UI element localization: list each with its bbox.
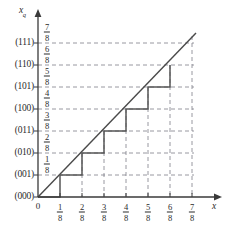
y-tick-label-1-8-denominator: 8	[44, 164, 50, 174]
y-tick-label-4-8-denominator: 8	[44, 98, 50, 108]
y-tick-label-7-8-numerator: 7	[44, 23, 50, 32]
y-axis-label-subscript: q	[23, 11, 26, 18]
code-label-111: (111)	[15, 38, 34, 48]
vertical-gridlines	[82, 36, 192, 196]
code-label-010: (010)	[14, 148, 34, 158]
code-label-001: (001)	[14, 170, 34, 180]
x-tick-label-3-8: 3 8	[101, 203, 107, 222]
x-tick-label-4-8-numerator: 4	[123, 203, 129, 212]
y-tick-label-3-8-denominator: 8	[44, 120, 50, 130]
x-tick-label-1-8-denominator: 8	[57, 212, 63, 222]
x-tick-label-3-8-numerator: 3	[101, 203, 107, 212]
quantizer-transfer-characteristic-figure: xq x (111) (110) (101) (100) (011) (010)…	[0, 0, 233, 235]
x-tick-label-5-8-denominator: 8	[145, 212, 151, 222]
x-tick-label-1-8-numerator: 1	[57, 203, 63, 212]
x-tick-label-6-8-numerator: 6	[167, 203, 173, 212]
code-label-000: (000)	[14, 192, 34, 202]
y-tick-label-3-8-numerator: 3	[44, 111, 50, 120]
y-tick-label-7-8: 7 8	[44, 23, 50, 42]
horizontal-gridlines	[38, 43, 194, 175]
y-tick-label-1-8: 1 8	[44, 155, 50, 174]
x-tick-label-3-8-denominator: 8	[101, 212, 107, 222]
x-tick-label-4-8: 4 8	[123, 203, 129, 222]
ideal-transfer-line	[38, 33, 196, 197]
x-tick-label-0: 0	[36, 201, 41, 211]
x-tick-label-2-8: 2 8	[79, 203, 85, 222]
y-tick-label-5-8-numerator: 5	[44, 67, 50, 76]
x-tick-label-7-8-numerator: 7	[189, 203, 195, 212]
x-tick-label-5-8: 5 8	[145, 203, 151, 222]
x-tick-label-5-8-numerator: 5	[145, 203, 151, 212]
y-tick-label-2-8-numerator: 2	[44, 133, 50, 142]
y-axis-label: xq	[19, 5, 26, 17]
x-tick-label-7-8: 7 8	[189, 203, 195, 222]
code-label-100: (100)	[14, 104, 34, 114]
x-tick-label-4-8-denominator: 8	[123, 212, 129, 222]
x-tick-label-7-8-denominator: 8	[189, 212, 195, 222]
x-axis-arrowhead	[214, 194, 222, 201]
x-tick-label-6-8: 6 8	[167, 203, 173, 222]
y-tick-label-4-8-numerator: 4	[44, 89, 50, 98]
code-label-110: (110)	[15, 60, 34, 70]
code-label-011: (011)	[15, 126, 34, 136]
x-tick-label-2-8-numerator: 2	[79, 203, 85, 212]
x-tick-label-2-8-denominator: 8	[79, 212, 85, 222]
y-tick-label-1-8-numerator: 1	[44, 155, 50, 164]
y-axis-arrowhead	[35, 9, 42, 17]
y-tick-label-2-8: 2 8	[44, 133, 50, 152]
y-tick-label-5-8-denominator: 8	[44, 76, 50, 86]
y-tick-label-6-8: 6 8	[44, 45, 50, 64]
x-axis-label: x	[212, 201, 216, 211]
code-label-101: (101)	[14, 82, 34, 92]
y-tick-label-6-8-denominator: 8	[44, 54, 50, 64]
y-tick-label-5-8: 5 8	[44, 67, 50, 86]
x-tick-label-1-8: 1 8	[57, 203, 63, 222]
y-tick-label-6-8-numerator: 6	[44, 45, 50, 54]
plot-canvas	[0, 0, 233, 235]
y-tick-label-3-8: 3 8	[44, 111, 50, 130]
x-tick-label-6-8-denominator: 8	[167, 212, 173, 222]
y-tick-label-4-8: 4 8	[44, 89, 50, 108]
y-tick-label-2-8-denominator: 8	[44, 142, 50, 152]
y-tick-label-7-8-denominator: 8	[44, 32, 50, 42]
